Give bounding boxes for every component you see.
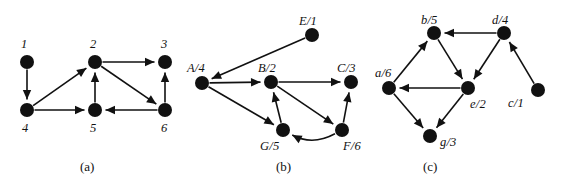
graph-edge [209,78,260,86]
node-label-B: B/2 [258,62,276,75]
node-label-b: b/5 [421,14,438,27]
graph-edge [474,39,500,79]
graph-edge [277,86,333,124]
graph-node [382,81,396,95]
node-label-C: C/3 [337,62,356,75]
graph-edge [23,70,31,100]
graph-node [88,55,102,69]
graph-edge [394,94,423,128]
graph-node [158,103,172,117]
graph-node [20,103,34,117]
graph-node [305,28,319,42]
graph-node [461,81,475,95]
panel-a [20,55,172,117]
panel-caption-panel-c: (c) [423,160,437,173]
graph-node [264,75,278,89]
graph-edge [445,29,497,37]
graph-node [497,26,511,40]
graph-edge [438,39,463,79]
graph-node [276,123,290,137]
node-label-G: G/5 [260,140,279,153]
node-label-3: 3 [161,38,167,51]
node-label-2: 2 [90,38,96,51]
graph-edge [91,73,99,103]
graph-edge [279,78,341,86]
graph-edge [161,73,169,103]
figure-directed-graphs: 123456(a)A/4B/2C/3E/1G/5F/6(b)a/6b/5d/4e… [0,0,576,185]
graph-node [344,75,358,89]
node-label-c: c/1 [508,97,524,110]
graph-node [158,55,172,69]
graph-edge [343,92,351,122]
node-label-1: 1 [21,38,27,51]
graph-edge [106,106,158,114]
graph-edge [437,94,464,128]
graph-edge [35,106,85,114]
graph-node [20,55,34,69]
graph-canvas [0,0,576,185]
graph-node [427,26,441,40]
node-label-e: e/2 [470,98,486,111]
panel-b [195,28,358,143]
node-label-a: a/6 [375,67,392,80]
panel-caption-panel-b: (b) [276,160,291,173]
graph-edge [272,92,281,123]
node-label-g: g/3 [440,136,457,149]
node-label-A: A/4 [187,62,205,75]
node-label-d: d/4 [492,14,509,27]
panel-caption-panel-a: (a) [80,160,94,173]
node-label-5: 5 [90,122,96,135]
graph-node [335,123,349,137]
graph-node [195,76,209,90]
graph-edge [101,66,156,104]
graph-node [531,83,545,97]
node-label-F: F/6 [343,140,361,153]
graph-node [423,129,437,143]
node-label-6: 6 [161,122,167,135]
graph-edge [509,42,534,84]
graph-edge [292,134,335,143]
graph-edge [33,68,86,106]
graph-edge [400,84,461,92]
graph-edge [103,58,155,66]
graph-edge [208,87,273,125]
node-label-4: 4 [22,122,28,135]
graph-node [88,103,102,117]
panel-c [382,26,545,143]
node-label-E: E/1 [299,15,317,28]
graph-edge [394,41,428,82]
